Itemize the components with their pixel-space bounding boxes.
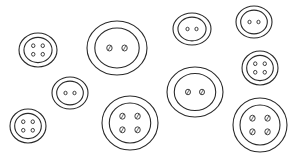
button-outer-rim [236,6,272,38]
button-inner-rim [15,113,42,138]
button-2-hole [236,6,272,38]
button-hole [248,20,251,24]
button-inner-rim [174,74,215,111]
button-hole [265,129,270,135]
button-hole [22,128,25,132]
buttons-illustration [0,0,306,161]
button-hole [120,127,125,133]
button-hole [186,89,191,95]
button-hole [73,91,76,95]
button-hole [120,113,125,119]
button-hole [22,120,25,124]
button-inner-rim [247,55,274,80]
button-inner-rim [109,103,150,143]
button-outer-rim [242,51,278,85]
button-hole [135,127,140,133]
button-hole [41,44,44,48]
button-inner-rim [178,17,206,41]
button-hole [32,44,35,48]
button-hole [122,45,127,51]
button-4-hole [233,98,287,152]
button-hole [195,27,198,31]
button-hole [41,52,44,56]
button-hole [135,113,140,119]
button-outer-rim [173,13,211,45]
buttons-artwork [0,0,306,161]
button-hole [250,129,255,135]
button-hole [186,27,189,31]
button-outer-rim [233,98,287,152]
button-2-hole [173,13,211,45]
button-hole [31,128,34,132]
button-inner-rim [240,105,280,145]
button-hole [250,115,255,121]
button-outer-rim [87,21,147,75]
button-2-hole [52,77,88,109]
button-hole [107,45,112,51]
button-outer-rim [102,96,158,150]
button-hole [263,70,266,74]
button-4-hole [242,51,278,85]
button-outer-rim [52,77,88,109]
button-inner-rim [24,37,52,62]
button-outer-rim [10,109,46,143]
button-hole [254,62,257,66]
button-inner-rim [57,81,84,105]
button-hole [200,89,205,95]
button-hole [265,115,270,121]
button-4-hole [10,109,46,143]
button-hole [254,70,257,74]
button-hole [64,91,67,95]
button-2-hole [167,67,223,117]
button-inner-rim [95,28,139,68]
button-inner-rim [241,10,268,34]
button-hole [257,20,260,24]
button-hole [31,120,34,124]
button-2-hole [87,21,147,75]
button-outer-rim [19,33,57,67]
button-4-hole [102,96,158,150]
button-hole [263,62,266,66]
button-hole [32,52,35,56]
button-outer-rim [167,67,223,117]
button-4-hole [19,33,57,67]
